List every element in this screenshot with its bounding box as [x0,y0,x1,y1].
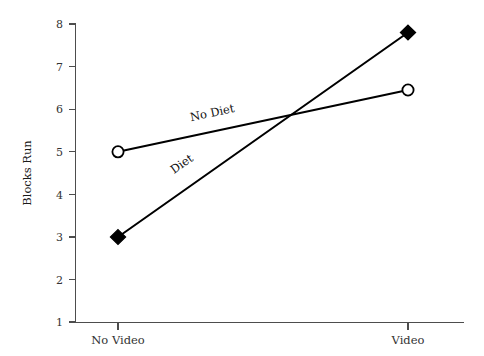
chart-background [0,0,484,356]
y-tick-label-4: 4 [56,189,63,202]
x-tick-label-video: Video [391,333,425,347]
y-tick-label-7: 7 [56,61,63,74]
y-tick-label-5: 5 [56,146,63,159]
y-tick-label-8: 8 [56,18,63,31]
y-tick-label-2: 2 [56,274,63,287]
interaction-plot: 8 7 6 5 4 3 2 1 Blocks Run No Video Vide… [0,0,484,356]
y-tick-label-1: 1 [56,316,63,329]
x-tick-label-no-video: No Video [91,333,145,347]
y-tick-label-3: 3 [56,231,63,244]
y-tick-label-6: 6 [56,103,63,116]
data-point-no-diet-no-video [112,146,123,157]
data-point-no-diet-video [402,84,413,95]
y-axis-title: Blocks Run [20,140,34,206]
chart-canvas: 8 7 6 5 4 3 2 1 Blocks Run No Video Vide… [0,0,484,356]
